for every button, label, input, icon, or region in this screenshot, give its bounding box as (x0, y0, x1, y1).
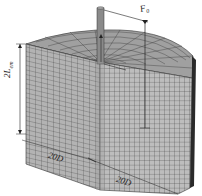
height-label: 2Lem (2, 61, 14, 78)
front-left-face (26, 44, 100, 190)
pile (96, 7, 105, 190)
front-right-face (100, 56, 196, 194)
height-dimension (16, 44, 26, 134)
fem-diagram: F0 2Lem 20D 20D (0, 0, 202, 196)
mesh-illustration (0, 0, 202, 196)
